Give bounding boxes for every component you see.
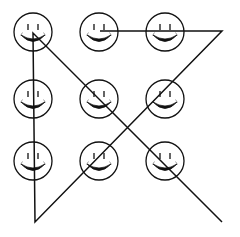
pattern-path-line: [33, 31, 222, 222]
smile: [153, 35, 177, 42]
smiley-face-icon: [146, 142, 184, 180]
smile: [21, 164, 45, 171]
smiley-face-icon: [80, 13, 118, 51]
face-outline: [146, 13, 184, 51]
smile: [153, 102, 177, 109]
face-outline: [146, 142, 184, 180]
face-outline: [80, 13, 118, 51]
face-outline: [80, 142, 118, 180]
smiley-face-icon: [146, 13, 184, 51]
face-outline: [146, 80, 184, 118]
face-outline: [14, 142, 52, 180]
smiley-face-icon: [14, 142, 52, 180]
smiley-face-icon: [80, 142, 118, 180]
smile: [87, 35, 111, 42]
smiley-face-icon: [146, 80, 184, 118]
smiley-grid-diagram: [0, 0, 240, 237]
